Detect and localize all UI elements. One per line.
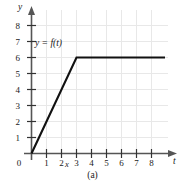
y-tick-label-6: 6 — [10, 54, 20, 63]
figure-container: 1 2 3 4 5 6 7 8 0 1 2 3 4 5 6 7 8 x y t … — [0, 0, 185, 186]
y-tick-label-4: 4 — [10, 86, 20, 95]
y-tick-label-2: 2 — [10, 118, 20, 127]
figure-caption: (a) — [0, 171, 185, 181]
y-axis-name: y — [18, 3, 22, 13]
y-tick-label-7: 7 — [10, 38, 20, 47]
x-marker-label: x — [65, 160, 69, 169]
y-tick-label-5: 5 — [10, 70, 20, 79]
x-tick-label-8: 8 — [146, 159, 158, 168]
x-tick-label-3: 3 — [71, 159, 83, 168]
curve-label: y = f(t) — [35, 39, 62, 49]
x-tick-label-6: 6 — [116, 159, 128, 168]
x-axis-name: t — [173, 157, 176, 167]
x-tick-label-4: 4 — [86, 159, 98, 168]
x-tick-label-1: 1 — [41, 159, 53, 168]
grid-vertical — [47, 10, 152, 154]
y-tick-label-8: 8 — [10, 22, 20, 31]
y-tick-label-3: 3 — [10, 102, 20, 111]
x-tick-label-5: 5 — [101, 159, 113, 168]
y-tick-label-1: 1 — [10, 134, 20, 143]
origin-label: 0 — [13, 159, 25, 168]
x-tick-label-7: 7 — [131, 159, 143, 168]
